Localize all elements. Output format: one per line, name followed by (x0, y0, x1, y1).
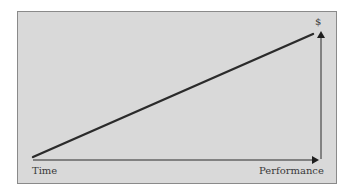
performance-label: Performance (259, 165, 324, 177)
x-axis-arrowhead-icon (312, 156, 319, 164)
y-axis-arrowhead-icon (317, 31, 325, 38)
trend-line (33, 34, 313, 157)
dollar-label: $ (315, 16, 321, 28)
time-label: Time (32, 165, 57, 177)
